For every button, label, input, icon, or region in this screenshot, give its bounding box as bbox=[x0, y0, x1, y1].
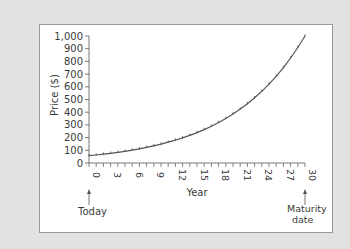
y-tick-label: 0 bbox=[77, 158, 83, 169]
x-tick-label: 6 bbox=[134, 172, 145, 178]
maturity-label-line2: date bbox=[292, 214, 314, 225]
maturity-annotation: Maturity date bbox=[287, 189, 327, 225]
x-tick-label: 18 bbox=[220, 169, 231, 181]
today-label: Today bbox=[77, 206, 107, 217]
x-tick-label: 3 bbox=[112, 172, 123, 178]
y-tick-label: 100 bbox=[64, 145, 83, 156]
x-tick-label: 12 bbox=[177, 169, 188, 181]
x-tick-label: 15 bbox=[199, 169, 210, 181]
today-arrowhead-icon bbox=[87, 189, 91, 194]
price-curve bbox=[89, 34, 305, 156]
x-tick-label: 30 bbox=[307, 169, 318, 181]
y-tick-label: 700 bbox=[64, 69, 83, 80]
y-tick-label: 1,000 bbox=[54, 31, 83, 42]
today-annotation: Today bbox=[77, 189, 107, 217]
x-axis: 036912151821242730 bbox=[89, 163, 318, 181]
y-tick-label: 200 bbox=[64, 132, 83, 143]
y-tick-label: 600 bbox=[64, 81, 83, 92]
y-tick-label: 500 bbox=[64, 94, 83, 105]
x-tick-label: 0 bbox=[91, 172, 102, 178]
x-tick-label: 9 bbox=[155, 172, 166, 178]
maturity-arrowhead-icon bbox=[303, 189, 307, 194]
x-tick-label: 27 bbox=[285, 169, 296, 181]
y-tick-label: 400 bbox=[64, 107, 83, 118]
maturity-label-line1: Maturity bbox=[287, 203, 327, 214]
y-tick-label: 800 bbox=[64, 56, 83, 67]
x-axis-label: Year bbox=[185, 187, 208, 198]
x-tick-label: 24 bbox=[263, 169, 274, 181]
x-tick-label: 21 bbox=[242, 169, 253, 181]
y-axis-label: Price ($) bbox=[49, 74, 60, 116]
y-tick-label: 900 bbox=[64, 43, 83, 54]
bond-price-chart: 01002003004005006007008009001,000 036912… bbox=[0, 0, 350, 249]
y-tick-label: 300 bbox=[64, 119, 83, 130]
